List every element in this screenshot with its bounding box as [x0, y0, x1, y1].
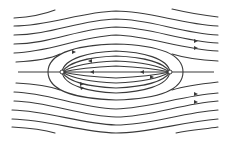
outer-streamlines-bottom — [12, 82, 218, 133]
source-point — [60, 70, 64, 74]
sink-point — [168, 70, 172, 74]
diagram-canvas: Source–sink pair in uniform flow (Rankin… — [0, 0, 231, 142]
streamline-diagram — [0, 0, 231, 142]
outer-streamlines-top — [14, 9, 218, 62]
